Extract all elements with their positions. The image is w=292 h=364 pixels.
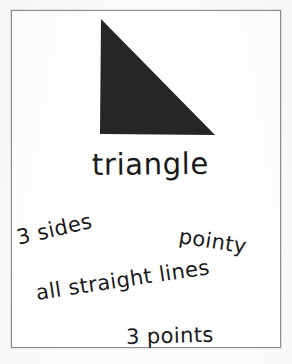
shape-flashcard: triangle 3 sides pointy all straight lin… (0, 0, 292, 364)
trait-label-points: 3 points (126, 323, 214, 349)
shape-name-label: triangle (92, 146, 209, 182)
